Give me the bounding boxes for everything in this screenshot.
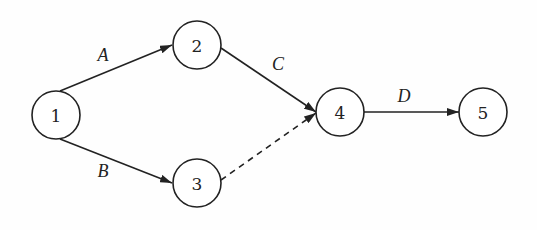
edge-label-C: C: [272, 54, 285, 74]
node-3: 3: [173, 159, 221, 207]
diagram-svg: A B C D 1 2 3 4 5: [0, 0, 537, 230]
node-4: 4: [316, 88, 364, 136]
node-2: 2: [173, 21, 221, 69]
node-label: 1: [51, 106, 62, 126]
edge-label-D: D: [397, 86, 411, 106]
edges: [60, 45, 459, 183]
edge-label-A: A: [97, 45, 110, 65]
node-1: 1: [32, 91, 80, 139]
node-5: 5: [459, 88, 507, 136]
node-label: 3: [192, 174, 203, 194]
node-label: 4: [335, 103, 346, 123]
edge-1-3-B: [60, 139, 172, 183]
node-label: 5: [478, 103, 489, 123]
node-label: 2: [192, 36, 203, 56]
edge-label-B: B: [98, 161, 109, 181]
network-diagram: A B C D 1 2 3 4 5: [0, 0, 537, 230]
edge-1-2-A: [60, 45, 172, 91]
edge-3-4-dummy: [221, 113, 316, 180]
edge-2-4-C: [221, 48, 316, 112]
